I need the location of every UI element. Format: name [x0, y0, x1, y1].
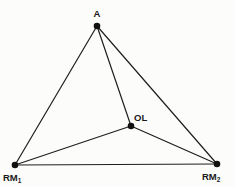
node-label-text-A: A — [94, 8, 101, 19]
node-dot-RM2 — [214, 161, 221, 168]
edge-RM2-OL — [131, 126, 217, 164]
node-dot-A — [94, 23, 101, 30]
edges-layer — [15, 26, 217, 165]
nodes-layer — [12, 23, 221, 169]
edge-A-RM2 — [97, 26, 217, 164]
edge-A-OL — [97, 26, 131, 126]
node-dot-OL — [128, 123, 135, 130]
triangle-diagram: AOLRM1RM2 — [0, 0, 235, 187]
node-label-OL: OL — [134, 112, 147, 123]
edge-RM1-RM2 — [15, 164, 217, 165]
node-label-text-OL: OL — [134, 112, 147, 123]
edge-RM1-OL — [15, 126, 131, 165]
node-label-subscript-RM1: 1 — [18, 177, 22, 184]
diagram-canvas: AOLRM1RM2 — [0, 0, 235, 187]
node-label-RM1: RM1 — [3, 172, 22, 184]
node-label-subscript-RM2: 2 — [217, 176, 221, 183]
node-label-text-RM2: RM — [202, 171, 217, 182]
edge-A-RM1 — [15, 26, 97, 165]
node-dot-RM1 — [12, 162, 19, 169]
node-label-text-RM1: RM — [3, 172, 18, 183]
node-label-A: A — [94, 8, 101, 19]
node-label-RM2: RM2 — [202, 171, 221, 183]
